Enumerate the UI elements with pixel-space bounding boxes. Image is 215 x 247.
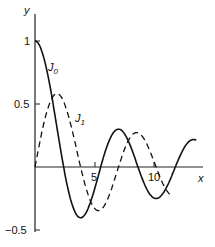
x-axis-label: x <box>197 172 204 184</box>
j1-curve <box>35 94 172 211</box>
y-tick-label-neg0.5: −0.5 <box>5 224 27 236</box>
x-tick-label-5: 5 <box>91 171 97 183</box>
j0-curve <box>35 41 196 218</box>
y-tick-label-0.5: 0.5 <box>14 98 29 110</box>
y-tick-label-1: 1 <box>24 35 30 47</box>
y-axis-label: y <box>23 4 31 16</box>
j0-label: J0 <box>47 61 59 76</box>
bessel-chart: y x 1 0.5 −0.5 5 10 J0 J1 <box>0 0 215 247</box>
j1-label: J1 <box>74 112 85 127</box>
x-tick-label-10: 10 <box>148 171 160 183</box>
